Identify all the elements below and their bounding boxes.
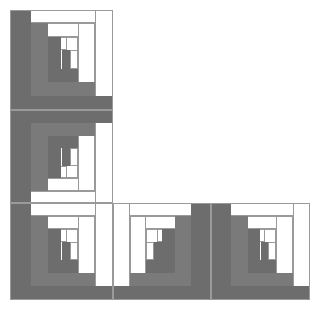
- quilt-canvas: [0, 0, 319, 312]
- log-strip: [113, 286, 211, 300]
- log-strip: [211, 286, 310, 300]
- log-strip: [70, 50, 78, 69]
- block-bottom-middle: [113, 203, 211, 300]
- log-strip: [146, 260, 174, 273]
- log-strip: [62, 148, 70, 166]
- log-strip: [70, 148, 78, 166]
- log-strip: [261, 242, 269, 260]
- log-strip: [154, 242, 162, 260]
- log-strip: [48, 69, 78, 82]
- log-strip: [31, 273, 96, 287]
- log-strip: [48, 136, 78, 148]
- block-top-left: [10, 10, 113, 110]
- log-strip: [10, 10, 31, 110]
- log-strip: [95, 10, 113, 110]
- block-bottom-left: [10, 203, 113, 300]
- log-strip: [231, 273, 293, 287]
- log-strip: [31, 123, 96, 136]
- block-middle-left: [10, 110, 113, 203]
- log-strip: [248, 260, 277, 273]
- log-strip: [10, 96, 113, 110]
- log-strip: [62, 242, 70, 260]
- log-strip: [48, 260, 78, 273]
- log-strip: [62, 50, 70, 69]
- log-strip: [10, 110, 113, 123]
- log-strip: [268, 242, 276, 260]
- block-bottom-right: [211, 203, 310, 300]
- log-strip: [10, 286, 113, 300]
- log-strip: [146, 242, 154, 260]
- log-strip: [10, 110, 31, 203]
- log-strip: [31, 82, 96, 96]
- log-strip: [95, 110, 113, 203]
- log-strip: [70, 242, 78, 260]
- log-strip: [130, 273, 192, 287]
